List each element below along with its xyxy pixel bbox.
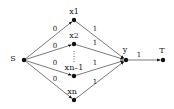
node-y: [124, 58, 128, 62]
node-label-xn: xn: [67, 88, 77, 96]
node-x1: [72, 18, 76, 22]
node-label-x1: x1: [69, 8, 79, 16]
node-label-x2: x2: [69, 32, 79, 40]
edge-weight-label: 1: [93, 25, 97, 33]
edge-weight-label: 1: [93, 78, 97, 86]
edge-weight-label: 0: [53, 59, 57, 67]
edge-S-to-x1: [24, 22, 72, 60]
flow-network-diagram: [0, 0, 174, 109]
node-label-S: S: [10, 55, 15, 63]
node-x2: [72, 42, 76, 46]
node-xn-1: [72, 74, 76, 78]
edge-weight-label: 1: [93, 59, 97, 67]
node-S: [22, 58, 26, 62]
edge-x2-to-y: [74, 44, 123, 59]
edge-weight-label: 1: [93, 39, 97, 47]
node-T: [161, 58, 165, 62]
edge-weight-label: 0: [53, 75, 57, 83]
edge-weight-label: 1: [137, 51, 141, 59]
node-label-xn-1: xn–1: [65, 64, 84, 72]
edge-S-to-x2: [24, 45, 71, 60]
edge-weight-label: 0: [53, 42, 57, 50]
edge-weight-label: 0: [53, 25, 57, 33]
node-label-y: y: [123, 46, 128, 54]
node-xn: [72, 98, 76, 102]
edge-x1-to-y: [74, 20, 124, 58]
node-label-T: T: [159, 47, 164, 55]
